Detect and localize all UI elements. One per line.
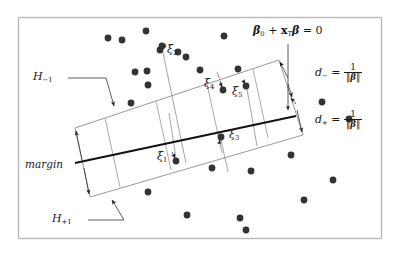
d-minus-arrows (280, 62, 292, 97)
data-point (145, 82, 152, 89)
xi-4-label: ξ4 (204, 78, 214, 91)
xi-2-label: ξ2 (167, 44, 177, 57)
h-minus-label: H−1 (33, 71, 53, 84)
slack-line-xi3 (221, 140, 228, 172)
data-point (209, 165, 216, 172)
data-point (243, 227, 250, 234)
data-point (197, 67, 204, 74)
h-plus-leader (88, 200, 124, 220)
data-point (119, 37, 126, 44)
margin-band (75, 60, 303, 197)
margin-label: margin (25, 159, 63, 170)
xi-1-label: ξ1 (157, 151, 167, 164)
svm-margin-figure: β0 + xTβ = 0 H−1 H+1 margin d− = 1 ‖β‖ d… (0, 0, 400, 256)
slack-line-xi1 (169, 113, 176, 158)
data-point (218, 134, 225, 141)
data-point (159, 43, 166, 50)
data-point (319, 99, 326, 106)
d-minus-label: d− = 1 ‖β‖ (315, 63, 362, 82)
data-point (330, 177, 337, 184)
data-point (243, 83, 250, 90)
data-point (105, 35, 112, 42)
data-point (220, 87, 227, 94)
data-point (288, 152, 295, 159)
data-point (173, 158, 180, 165)
slack-lines (162, 48, 257, 172)
data-point (235, 66, 242, 73)
data-point (144, 68, 151, 75)
decision-boundary-line (75, 116, 296, 163)
data-point (184, 212, 191, 219)
d-plus-label: d+ = 1 ‖β‖ (315, 110, 362, 129)
data-point (221, 33, 228, 40)
h-plus-label: H+1 (52, 213, 72, 226)
data-point (132, 69, 139, 76)
xi-5-label: ξ5 (232, 86, 242, 99)
data-point (143, 28, 150, 35)
data-point (183, 54, 190, 61)
data-point (145, 189, 152, 196)
data-point (301, 197, 308, 204)
data-point (237, 215, 244, 222)
data-point (248, 168, 255, 175)
decision-boundary-equation: β0 + xTβ = 0 (253, 25, 323, 38)
xi-3-label: ξ3 (229, 129, 239, 142)
slack-line-xi5 (247, 89, 257, 146)
data-point (128, 100, 135, 107)
h-minus-leader (68, 78, 114, 106)
